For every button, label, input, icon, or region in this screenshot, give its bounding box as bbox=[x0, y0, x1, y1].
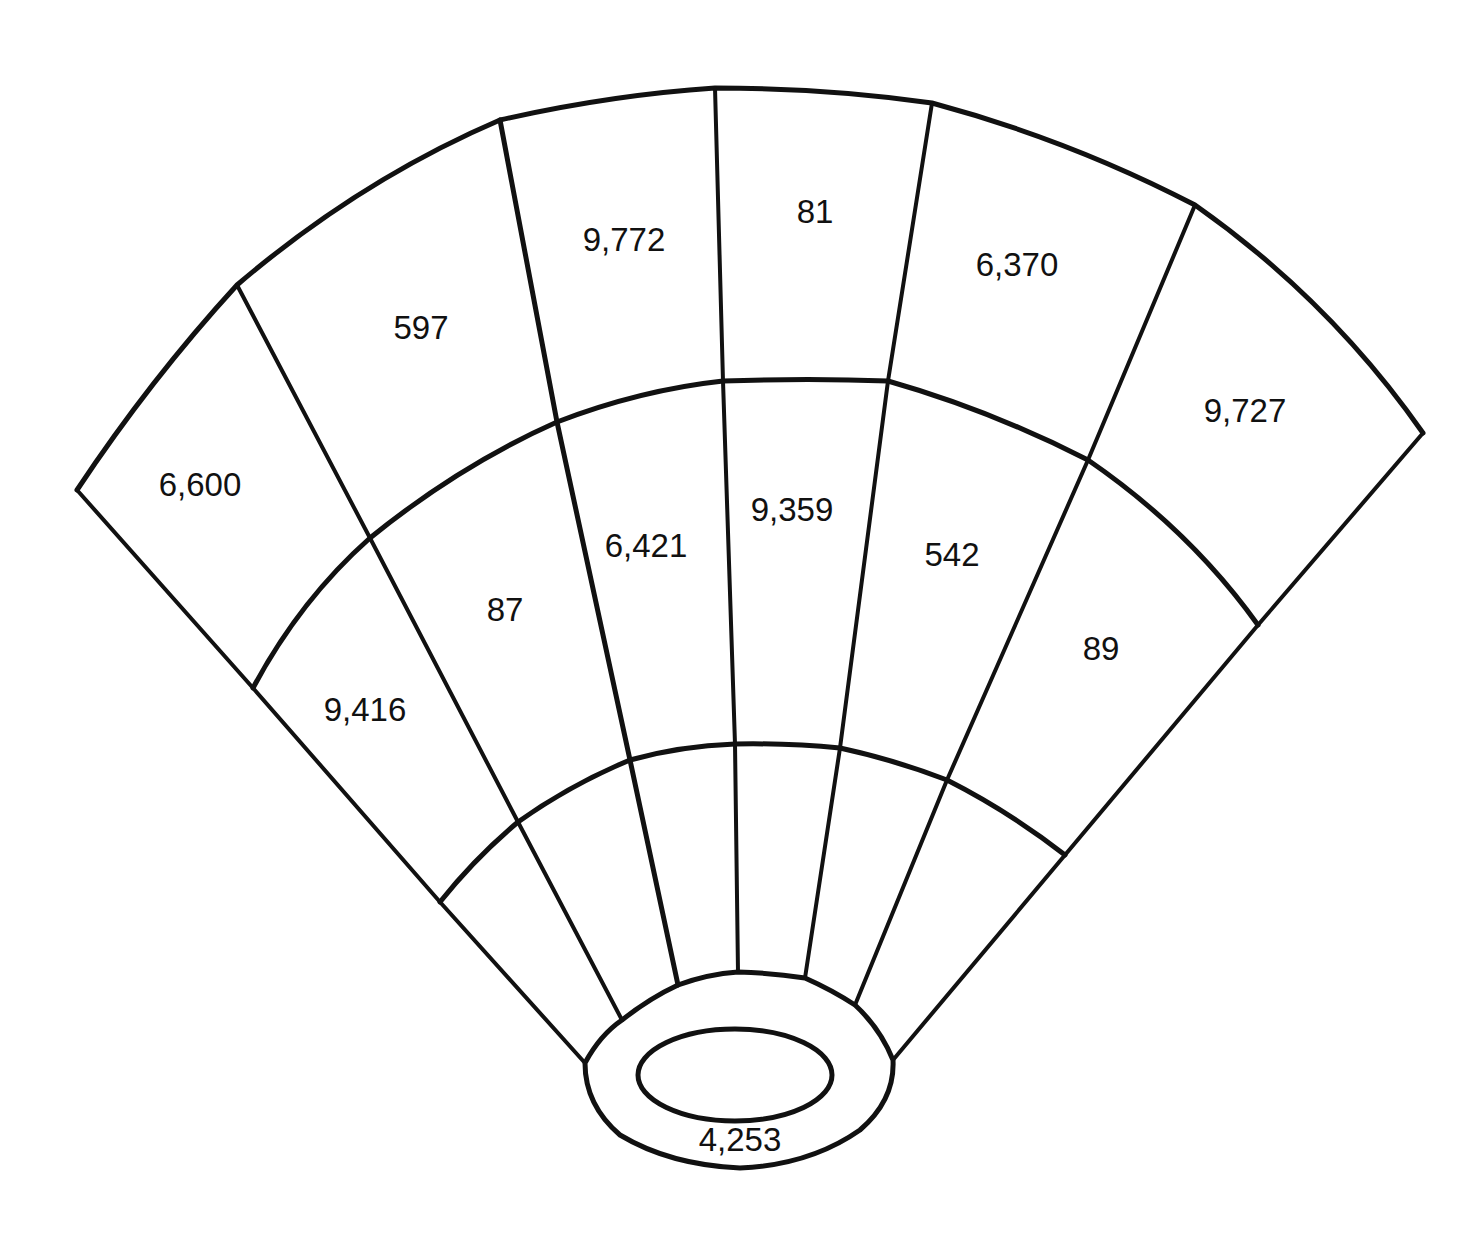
right-edge bbox=[893, 433, 1423, 1060]
radial-divider-4 bbox=[805, 103, 932, 978]
radial-divider-1 bbox=[237, 285, 622, 1020]
radial-divider-3 bbox=[715, 88, 738, 972]
section-label-M6: 89 bbox=[1083, 630, 1120, 667]
section-label-M5: 542 bbox=[924, 536, 979, 573]
stadium-seating-diagram: 6,600 597 9,772 81 6,370 9,727 9,416 87 … bbox=[0, 0, 1463, 1233]
radial-divider-5 bbox=[855, 205, 1195, 1005]
section-label-U5: 6,370 bbox=[976, 246, 1059, 283]
section-label-U2: 597 bbox=[393, 309, 448, 346]
section-label-U4: 81 bbox=[797, 193, 834, 230]
section-label-M1: 9,416 bbox=[324, 691, 407, 728]
section-label-U3: 9,772 bbox=[583, 221, 666, 258]
field-inner-ellipse bbox=[638, 1029, 832, 1121]
section-label-U6: 9,727 bbox=[1204, 392, 1287, 429]
section-label-M2: 87 bbox=[487, 591, 524, 628]
section-label-M4: 9,359 bbox=[751, 491, 834, 528]
ring-divider-lower bbox=[440, 744, 1065, 902]
field-label: 4,253 bbox=[699, 1121, 782, 1158]
outer-boundary-arc bbox=[77, 88, 1423, 490]
section-label-U1: 6,600 bbox=[159, 466, 242, 503]
section-label-M3: 6,421 bbox=[605, 527, 688, 564]
